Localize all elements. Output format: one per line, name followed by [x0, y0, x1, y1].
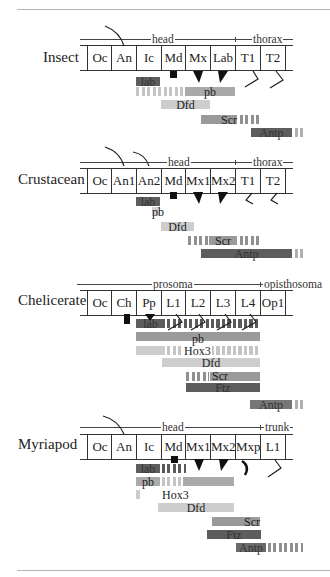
segment-cell: An: [111, 45, 136, 71]
leg-icon: [270, 71, 283, 88]
gene-bar-dfd: Dfd: [162, 358, 260, 367]
species-label: Chelicerate: [18, 292, 86, 309]
gene-bar-hox3: [136, 346, 165, 355]
gene-stripes-lab: [167, 319, 260, 328]
gene-bar-lab: lab: [136, 464, 160, 473]
species-label: Myriapod: [18, 436, 77, 453]
gene-bar-dfd: Dfd: [161, 222, 194, 231]
species-label: Crustacean: [18, 171, 85, 188]
mandible-icon: [170, 71, 177, 78]
region-label-head: head: [161, 421, 185, 433]
gene-bar-antp: Antp: [236, 543, 266, 552]
region-label-trunk: trunk: [264, 421, 290, 433]
segment-cell: Mx2: [210, 168, 235, 194]
antenna-icon: [105, 147, 124, 166]
gene-bar-dfd: Dfd: [158, 503, 234, 512]
segment-row: Oc An Ic Md Mx Lab T1 T2: [80, 45, 293, 71]
segment-cell: Oc: [87, 45, 112, 71]
segment-cell: L4: [235, 290, 260, 316]
gene-label-scr: Scr: [212, 371, 228, 381]
species-label: Insect: [43, 49, 79, 66]
segment-cell: An2: [136, 168, 161, 194]
segment-cell: Op1: [260, 290, 286, 316]
gene-bar-antp: Antp: [251, 128, 292, 137]
segment-cell: T2: [260, 168, 286, 194]
maxilla-icon: [193, 71, 203, 83]
segment-cell: Pp: [136, 290, 161, 316]
segment-cell: T2: [260, 45, 286, 71]
leg-icon: [268, 460, 281, 477]
region-label-thorax: thorax: [252, 156, 283, 168]
segment-cell: L2: [185, 290, 210, 316]
gene-bar-antp: Antp: [201, 249, 292, 258]
gene-stripes-scr: [240, 115, 259, 124]
gene-bar-lab: lab: [136, 319, 165, 328]
maxilliped-icon: [242, 461, 247, 475]
gene-bar-scr: Scr: [209, 236, 237, 245]
gene-stripes-scr: [186, 372, 209, 381]
gene-stripes-antp: [295, 400, 303, 409]
segment-cell: T1: [235, 168, 260, 194]
gene-bar-pb: pb: [136, 477, 160, 486]
segment-row: Oc Ch Pp L1 L2 L3 L4 Op1: [80, 290, 293, 316]
segment-cell: Oc: [87, 434, 112, 460]
gene-stripes-lab: [162, 464, 186, 473]
segment-cell: Ch: [111, 290, 136, 316]
gene-bar-pb: pb: [136, 332, 260, 341]
antenna-icon: [105, 26, 124, 46]
gene-bar-ftz: Ftz: [207, 530, 261, 539]
segment-cell: Md: [161, 168, 185, 194]
segment-cell: Md: [161, 45, 185, 71]
gene-stripes-antp: [268, 543, 303, 552]
gene-stripes-antp: [295, 249, 303, 258]
segment-cell: Mx1: [185, 168, 210, 194]
segment-cell: Ic: [136, 434, 161, 460]
leg-icon: [245, 71, 258, 87]
region-label-thorax: thorax: [252, 33, 283, 45]
antenna-icon: [103, 416, 124, 434]
region-label-prosoma: prosoma: [152, 278, 194, 290]
gene-bar-pb: pb: [185, 87, 235, 96]
segment-cell: T1: [235, 45, 260, 71]
segment-row: Oc An Ic Md Mx1 Mx2 Mxp L1: [80, 434, 293, 460]
gene-bar-lab: lab: [136, 77, 160, 86]
segment-cell: Mx2: [210, 434, 235, 460]
segment-cell: Oc: [87, 168, 112, 194]
antenna-icon: [133, 152, 149, 166]
leg-icon: [246, 193, 253, 204]
region-label-head: head: [167, 156, 191, 168]
segment-row: Oc An1 An2 Md Mx1 Mx2 T1 T2: [80, 168, 293, 194]
gene-stripes-antp: [295, 128, 303, 137]
segment-cell: An1: [111, 168, 136, 194]
maxilla-icon: [219, 459, 229, 471]
segment-cell: L1: [260, 434, 286, 460]
maxilla-icon: [194, 459, 204, 471]
gene-bar-dfd: Dfd: [161, 100, 210, 109]
segment-cell: Mxp: [235, 434, 260, 460]
segment-cell: An: [111, 434, 136, 460]
segment-cell: Oc: [87, 290, 112, 316]
gene-bar-pb: pb: [152, 207, 160, 216]
segment-cell: Md: [161, 434, 185, 460]
segment-cell: L3: [210, 290, 235, 316]
gene-bar-hox3: [136, 490, 140, 499]
labium-icon: [218, 71, 228, 83]
region-divider-tick: [235, 160, 236, 165]
segment-cell: Lab: [210, 45, 235, 71]
gene-label-hox3: Hox3: [183, 346, 212, 356]
gene-bar-pb-posterior: [183, 477, 234, 486]
segment-cell: Ic: [136, 45, 161, 71]
region-line: [80, 427, 293, 428]
gene-bar-scr: Scr: [201, 115, 237, 124]
gene-bar-antp: Antp: [250, 400, 292, 409]
region-divider-tick: [260, 282, 261, 287]
gene-stripes-pb: [136, 87, 185, 96]
gene-label-hox3: Hox3: [162, 490, 189, 500]
segment-cell: Mx: [185, 45, 210, 71]
region-label-opisthosoma: opisthosoma: [263, 278, 323, 290]
gene-stripes-scr: [188, 236, 208, 245]
gene-stripes-pb: [162, 477, 182, 486]
segment-cell: Mx1: [185, 434, 210, 460]
segment-cell: L1: [161, 290, 185, 316]
region-label-head: head: [151, 33, 175, 45]
